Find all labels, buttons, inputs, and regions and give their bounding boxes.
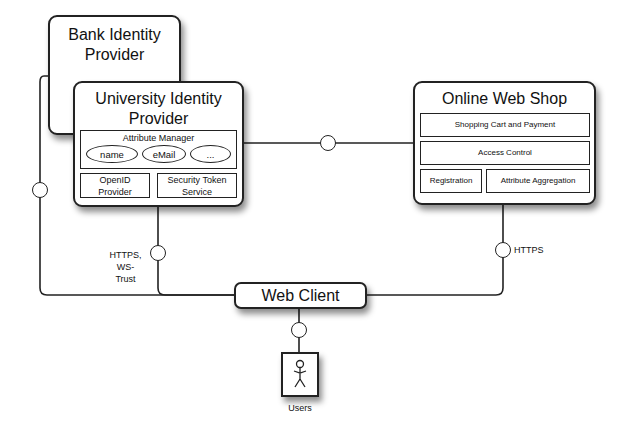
security-token-service: Security Token Service bbox=[157, 173, 237, 198]
online-web-shop: Online Web Shop Shopping Cart and Paymen… bbox=[413, 81, 596, 205]
users-actor bbox=[281, 352, 319, 397]
registration: Registration bbox=[420, 169, 482, 193]
shop-client-protocol-label: HTTPS bbox=[514, 244, 544, 256]
attribute-name: name bbox=[86, 145, 138, 163]
idp-client-protocol-label: HTTPS, WS- Trust bbox=[103, 249, 148, 285]
attribute-email: eMail bbox=[142, 145, 186, 163]
access-control: Access Control bbox=[420, 141, 590, 165]
university-title-line2: Provider bbox=[75, 109, 242, 129]
university-identity-provider: University Identity Provider Attribute M… bbox=[73, 81, 244, 207]
interface-circle-shop bbox=[495, 242, 511, 258]
attribute-manager-label: Attribute Manager bbox=[81, 132, 236, 144]
interface-circle-university bbox=[150, 245, 166, 261]
university-title-line1: University Identity bbox=[75, 89, 242, 109]
openid-provider: OpenID Provider bbox=[80, 173, 150, 198]
shopping-cart-payment: Shopping Cart and Payment bbox=[420, 113, 590, 137]
web-shop-title: Online Web Shop bbox=[415, 89, 594, 109]
interface-circle-shop-idp bbox=[320, 135, 336, 151]
attribute-more: ... bbox=[190, 145, 231, 163]
stick-figure-icon bbox=[283, 354, 317, 395]
interface-circle-users bbox=[291, 322, 307, 338]
attribute-aggregation: Attribute Aggregation bbox=[486, 169, 590, 193]
bank-title-line2: Provider bbox=[50, 45, 179, 65]
users-label: Users bbox=[283, 402, 317, 414]
bank-title-line1: Bank Identity bbox=[50, 25, 179, 45]
web-client: Web Client bbox=[234, 282, 367, 309]
web-client-title: Web Client bbox=[262, 287, 340, 305]
interface-circle-bank bbox=[32, 182, 48, 198]
